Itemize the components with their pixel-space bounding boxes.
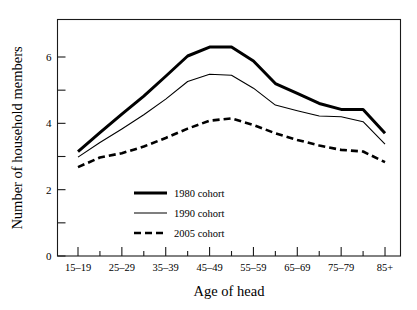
legend-label: 2005 cohort [174, 228, 225, 239]
series-line-2005-cohort [78, 118, 385, 167]
x-tick-label: 55–59 [240, 262, 266, 273]
chart-figure: 0246 15–1925–2935–3945–4955–5965–6975–79… [0, 0, 417, 310]
legend-label: 1980 cohort [174, 188, 225, 199]
x-tick-label: 45–49 [196, 262, 222, 273]
y-tick-label: 2 [46, 184, 52, 196]
y-axis: 0246 [46, 51, 66, 262]
series-line-1990-cohort [78, 74, 385, 157]
legend-label: 1990 cohort [174, 208, 225, 219]
x-tick-label: 35–39 [153, 262, 179, 273]
x-axis: 15–1925–2935–3945–4955–5965–6975–7985+ [65, 247, 393, 273]
plot-frame [58, 20, 401, 257]
y-axis-title: Number of household members [9, 46, 25, 230]
y-tick-label: 0 [46, 250, 52, 262]
x-tick-label: 65–69 [284, 262, 310, 273]
series-line-1980-cohort [78, 47, 385, 151]
series-group [78, 47, 385, 167]
chart-legend: 1980 cohort1990 cohort2005 cohort [134, 188, 225, 239]
x-tick-label: 75–79 [328, 262, 354, 273]
x-tick-label: 15–19 [65, 262, 91, 273]
y-tick-label: 4 [46, 117, 52, 129]
line-chart: 0246 15–1925–2935–3945–4955–5965–6975–79… [0, 0, 417, 310]
x-axis-title: Age of head [194, 283, 266, 299]
y-tick-label: 6 [46, 51, 52, 63]
x-tick-label: 85+ [377, 262, 394, 273]
x-tick-label: 25–29 [109, 262, 135, 273]
